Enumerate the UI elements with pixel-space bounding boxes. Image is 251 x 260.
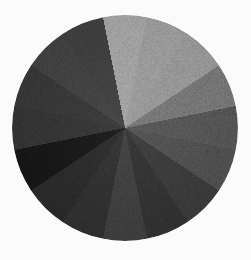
- pie-chart: [12, 15, 238, 241]
- chart-canvas: [0, 0, 251, 260]
- pie-slices: [12, 15, 238, 241]
